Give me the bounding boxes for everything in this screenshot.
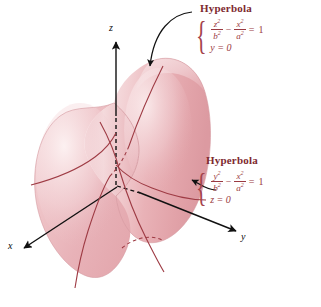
callout-top-title: Hyperbola [200, 2, 252, 14]
rhs-value-bottom: 1 [258, 176, 263, 187]
callout-top-equation-line2: y = 0 [210, 42, 265, 53]
minus-operator-bottom: − [226, 176, 232, 187]
callout-bottom-equations: { y2 b2 − x2 a2 = 1 z = 0 [196, 170, 265, 205]
fraction-x2-over-a2-top: x2 a2 [234, 18, 246, 41]
fraction-z2-over-b2: z2 b2 [211, 18, 223, 41]
fraction-x2-over-a2-bottom: x2 a2 [234, 170, 246, 193]
minus-operator-top: − [226, 24, 232, 35]
callout-top-equations: { z2 b2 − x2 a2 = 1 y = 0 [196, 18, 265, 53]
z-axis-label: z [109, 22, 113, 33]
x-axis-label: x [8, 240, 12, 251]
equals-sign-bottom: = [249, 176, 255, 187]
callout-bottom-equation-line1: y2 b2 − x2 a2 = 1 [210, 170, 265, 193]
callout-bottom-equation-line2: z = 0 [210, 194, 265, 205]
leader-arrow-top [150, 12, 192, 66]
callout-top-equation-line1: z2 b2 − x2 a2 = 1 [210, 18, 265, 41]
fraction-y2-over-b2: y2 b2 [211, 170, 223, 193]
hyperboloid-surface [35, 58, 211, 277]
equals-sign-top: = [249, 24, 255, 35]
callout-bottom-title: Hyperbola [206, 154, 258, 166]
hyperboloid-figure [0, 0, 321, 307]
y-axis-label: y [241, 231, 245, 242]
rhs-value-top: 1 [258, 24, 263, 35]
surface-highlight-right [124, 68, 192, 192]
